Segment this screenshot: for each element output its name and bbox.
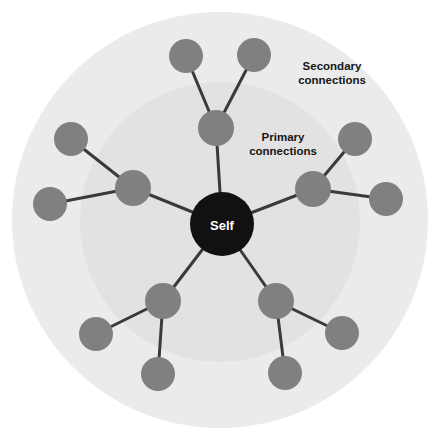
primary-node-p1 <box>198 110 234 146</box>
primary-label-line-2: connections <box>249 145 317 157</box>
primary-node-p3 <box>258 283 294 319</box>
primary-node-p5 <box>115 170 151 206</box>
secondary-node-s4b <box>79 317 113 351</box>
secondary-node-s5b <box>33 187 67 221</box>
secondary-node-s1a <box>169 39 203 73</box>
secondary-node-s2a <box>338 122 372 156</box>
primary-label-line-1: Primary <box>262 131 305 143</box>
secondary-label-line-1: Secondary <box>303 60 362 72</box>
secondary-node-s2b <box>369 182 403 216</box>
self-node-label: Self <box>210 218 235 233</box>
secondary-node-s1b <box>237 38 271 72</box>
primary-node-p4 <box>145 283 181 319</box>
secondary-node-s3a <box>325 316 359 350</box>
secondary-label-line-2: connections <box>298 74 366 86</box>
network-diagram-canvas: SelfSecondaryconnectionsPrimaryconnectio… <box>0 0 440 444</box>
network-diagram: SelfSecondaryconnectionsPrimaryconnectio… <box>0 0 440 444</box>
secondary-node-s3b <box>268 356 302 390</box>
secondary-node-s5a <box>54 122 88 156</box>
primary-node-p2 <box>295 171 331 207</box>
secondary-node-s4a <box>141 357 175 391</box>
